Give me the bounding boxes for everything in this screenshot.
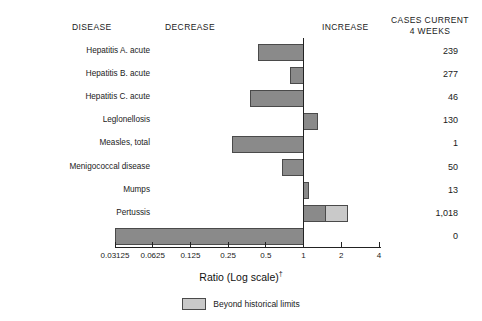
legend-label-beyond-historical-limits: Beyond historical limits bbox=[213, 299, 299, 309]
bar-2 bbox=[290, 67, 304, 83]
bar-8 bbox=[304, 206, 326, 222]
bar-5 bbox=[232, 136, 303, 152]
x-axis-title: Ratio (Log scale)† bbox=[0, 270, 482, 283]
bar-9 bbox=[115, 229, 304, 245]
bar-3 bbox=[251, 90, 304, 106]
bar-4 bbox=[304, 113, 318, 129]
bar-beyond-historical-limits-8 bbox=[326, 206, 348, 222]
bar-1 bbox=[259, 44, 304, 60]
bars-group bbox=[115, 44, 348, 245]
x-axis-title-text: Ratio (Log scale) bbox=[199, 271, 278, 283]
morbidity-ratio-chart: DISEASE DECREASE INCREASE CASES CURRENT … bbox=[0, 0, 482, 321]
bar-7 bbox=[304, 183, 309, 199]
legend: Beyond historical limits bbox=[0, 298, 482, 310]
legend-swatch-beyond-historical-limits bbox=[182, 298, 206, 310]
x-axis-title-dagger: † bbox=[279, 270, 283, 277]
bar-6 bbox=[283, 160, 304, 176]
